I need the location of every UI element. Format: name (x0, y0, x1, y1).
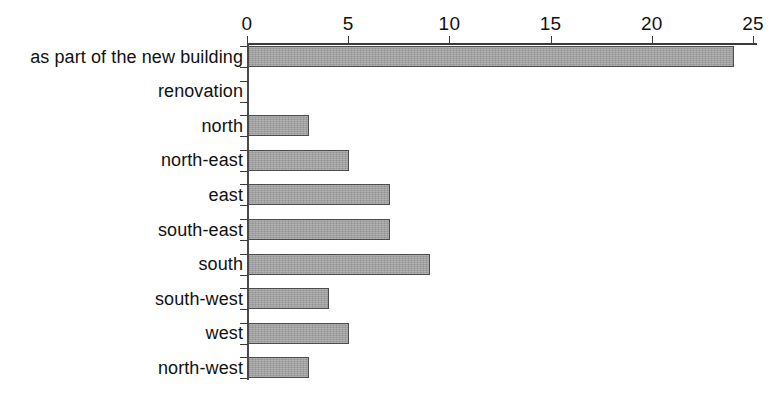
y-axis-tick (240, 309, 248, 310)
x-axis-tick (652, 36, 653, 44)
y-axis-tick (240, 275, 248, 276)
bar (248, 323, 349, 344)
y-axis-tick (240, 136, 248, 137)
category-label: north-east (161, 151, 243, 169)
category-label: as part of the new building (30, 48, 243, 66)
y-axis-tick (240, 171, 248, 172)
category-label: north (201, 117, 243, 135)
x-axis-tick (551, 36, 552, 44)
x-axis-tick-label: 25 (742, 14, 764, 33)
x-axis-tick (247, 36, 248, 44)
x-axis-tick (348, 36, 349, 44)
category-label: west (206, 324, 243, 342)
y-axis-tick (240, 115, 248, 116)
horizontal-bar-chart: as part of the new buildingrenovationnor… (0, 0, 773, 399)
y-axis-tick (240, 184, 248, 185)
x-axis-tick (753, 36, 754, 44)
bar (248, 219, 390, 240)
y-axis-tick (240, 102, 248, 103)
x-axis-tick-label: 20 (641, 14, 663, 33)
x-axis-line (247, 43, 757, 45)
plot-area (247, 0, 773, 399)
x-axis-tick-label: 10 (439, 14, 461, 33)
y-axis-tick (240, 46, 248, 47)
x-axis-tick-label: 15 (540, 14, 562, 33)
bar (248, 150, 349, 171)
y-axis-tick (240, 67, 248, 68)
y-axis-tick (240, 240, 248, 241)
y-axis-tick (240, 254, 248, 255)
bar (248, 115, 309, 136)
bar (248, 46, 734, 67)
y-axis-tick (240, 357, 248, 358)
bar (248, 357, 309, 378)
x-axis-tick-label: 0 (242, 14, 253, 33)
y-axis-tick (240, 288, 248, 289)
x-axis-tick-label: 5 (343, 14, 354, 33)
y-axis-tick (240, 219, 248, 220)
category-label: south (198, 255, 243, 273)
y-axis-tick (240, 81, 248, 82)
y-axis-tick (240, 323, 248, 324)
y-axis-tick (240, 344, 248, 345)
y-axis-tick (240, 378, 248, 379)
category-axis-labels: as part of the new buildingrenovationnor… (0, 0, 243, 399)
y-axis-tick (240, 150, 248, 151)
category-label: south-west (155, 290, 243, 308)
category-label: south-east (158, 221, 243, 239)
y-axis-tick (240, 205, 248, 206)
bar (248, 254, 430, 275)
x-axis-tick (449, 36, 450, 44)
category-label: north-west (158, 359, 243, 377)
bar (248, 288, 329, 309)
category-label: east (209, 186, 243, 204)
category-label: renovation (158, 82, 243, 100)
bar (248, 184, 390, 205)
